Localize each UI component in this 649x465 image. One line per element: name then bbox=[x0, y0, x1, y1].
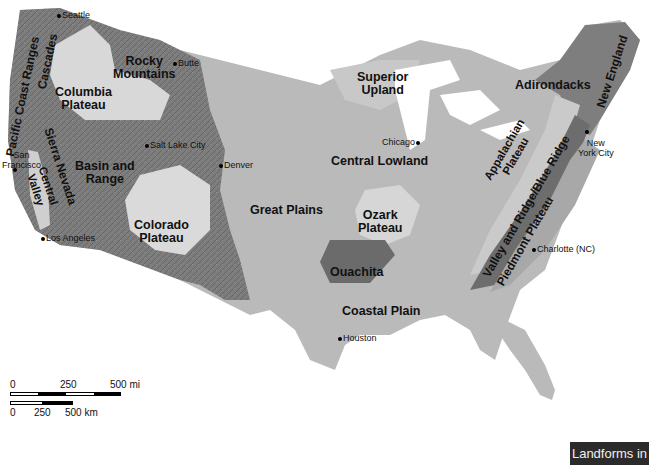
scale-mi-500: 500 mi bbox=[110, 380, 140, 390]
city-dot-icon bbox=[585, 130, 589, 134]
label-ouachita: Ouachita bbox=[330, 266, 384, 279]
city-los-angeles: Los Angeles bbox=[40, 233, 95, 243]
scale-km-bar bbox=[10, 401, 73, 405]
city-charlotte: Charlotte (NC) bbox=[531, 244, 595, 254]
city-dot-icon bbox=[219, 164, 223, 168]
city-label-line2: Francisco bbox=[2, 160, 41, 170]
label-coastal-plain: Coastal Plain bbox=[342, 305, 421, 318]
city-dot-icon bbox=[532, 248, 536, 252]
label-colorado-plateau: Colorado Plateau bbox=[134, 219, 189, 245]
city-label: Chicago bbox=[382, 137, 415, 147]
city-dot-icon bbox=[338, 337, 342, 341]
scale-bar: 0 250 500 mi 0 250 500 km bbox=[10, 380, 150, 430]
scale-km-250: 250 bbox=[34, 408, 51, 418]
city-dot-icon bbox=[173, 62, 177, 66]
city-chicago: Chicago bbox=[382, 137, 421, 147]
city-dot-icon bbox=[41, 237, 45, 241]
city-label: Charlotte (NC) bbox=[537, 244, 595, 254]
city-label: Denver bbox=[224, 160, 253, 170]
label-rocky-mountains: Rocky Mountains bbox=[113, 55, 176, 81]
scale-mi-bar bbox=[10, 392, 121, 396]
label-columbia-line2: Plateau bbox=[55, 99, 112, 112]
label-central-lowland: Central Lowland bbox=[331, 155, 428, 168]
label-superior-upland: Superior Upland bbox=[357, 71, 408, 97]
city-label: Seattle bbox=[62, 10, 90, 20]
scale-km-0: 0 bbox=[10, 408, 16, 418]
city-dot-icon bbox=[13, 168, 17, 172]
city-label: Houston bbox=[343, 333, 377, 343]
label-adirondacks: Adirondacks bbox=[515, 79, 591, 92]
city-label: Butte bbox=[178, 58, 199, 68]
label-basin-line2: Range bbox=[75, 173, 135, 186]
label-columbia-plateau: Columbia Plateau bbox=[55, 86, 112, 112]
scale-km-500: 500 km bbox=[65, 408, 98, 418]
city-denver: Denver bbox=[218, 160, 253, 170]
city-label: Los Angeles bbox=[46, 233, 95, 243]
city-dot-icon bbox=[416, 141, 420, 145]
city-new-york: New York City bbox=[578, 130, 614, 158]
label-ozark-line2: Plateau bbox=[358, 222, 402, 235]
city-label-line1: San bbox=[2, 150, 41, 160]
city-houston: Houston bbox=[337, 333, 377, 343]
map-title: Landforms in bbox=[570, 442, 649, 465]
scale-mi-0: 0 bbox=[10, 380, 16, 390]
city-san-francisco: San Francisco bbox=[2, 150, 41, 170]
label-rocky-line2: Mountains bbox=[113, 68, 176, 81]
city-dot-icon bbox=[145, 144, 149, 148]
label-superior-line2: Upland bbox=[357, 84, 408, 97]
label-basin-and-range: Basin and Range bbox=[75, 160, 135, 186]
scale-mi-250: 250 bbox=[60, 380, 77, 390]
florida bbox=[500, 320, 555, 400]
city-dot-icon bbox=[57, 14, 61, 18]
city-label: Salt Lake City bbox=[150, 140, 206, 150]
city-label-line1: New bbox=[578, 138, 614, 148]
city-seattle: Seattle bbox=[56, 10, 90, 20]
city-salt-lake-city: Salt Lake City bbox=[144, 140, 206, 150]
label-ozark-plateau: Ozark Plateau bbox=[358, 209, 402, 235]
city-label-line2: York City bbox=[578, 148, 614, 158]
label-great-plains: Great Plains bbox=[250, 204, 323, 217]
label-colorado-line2: Plateau bbox=[134, 232, 189, 245]
city-butte: Butte bbox=[172, 58, 199, 68]
